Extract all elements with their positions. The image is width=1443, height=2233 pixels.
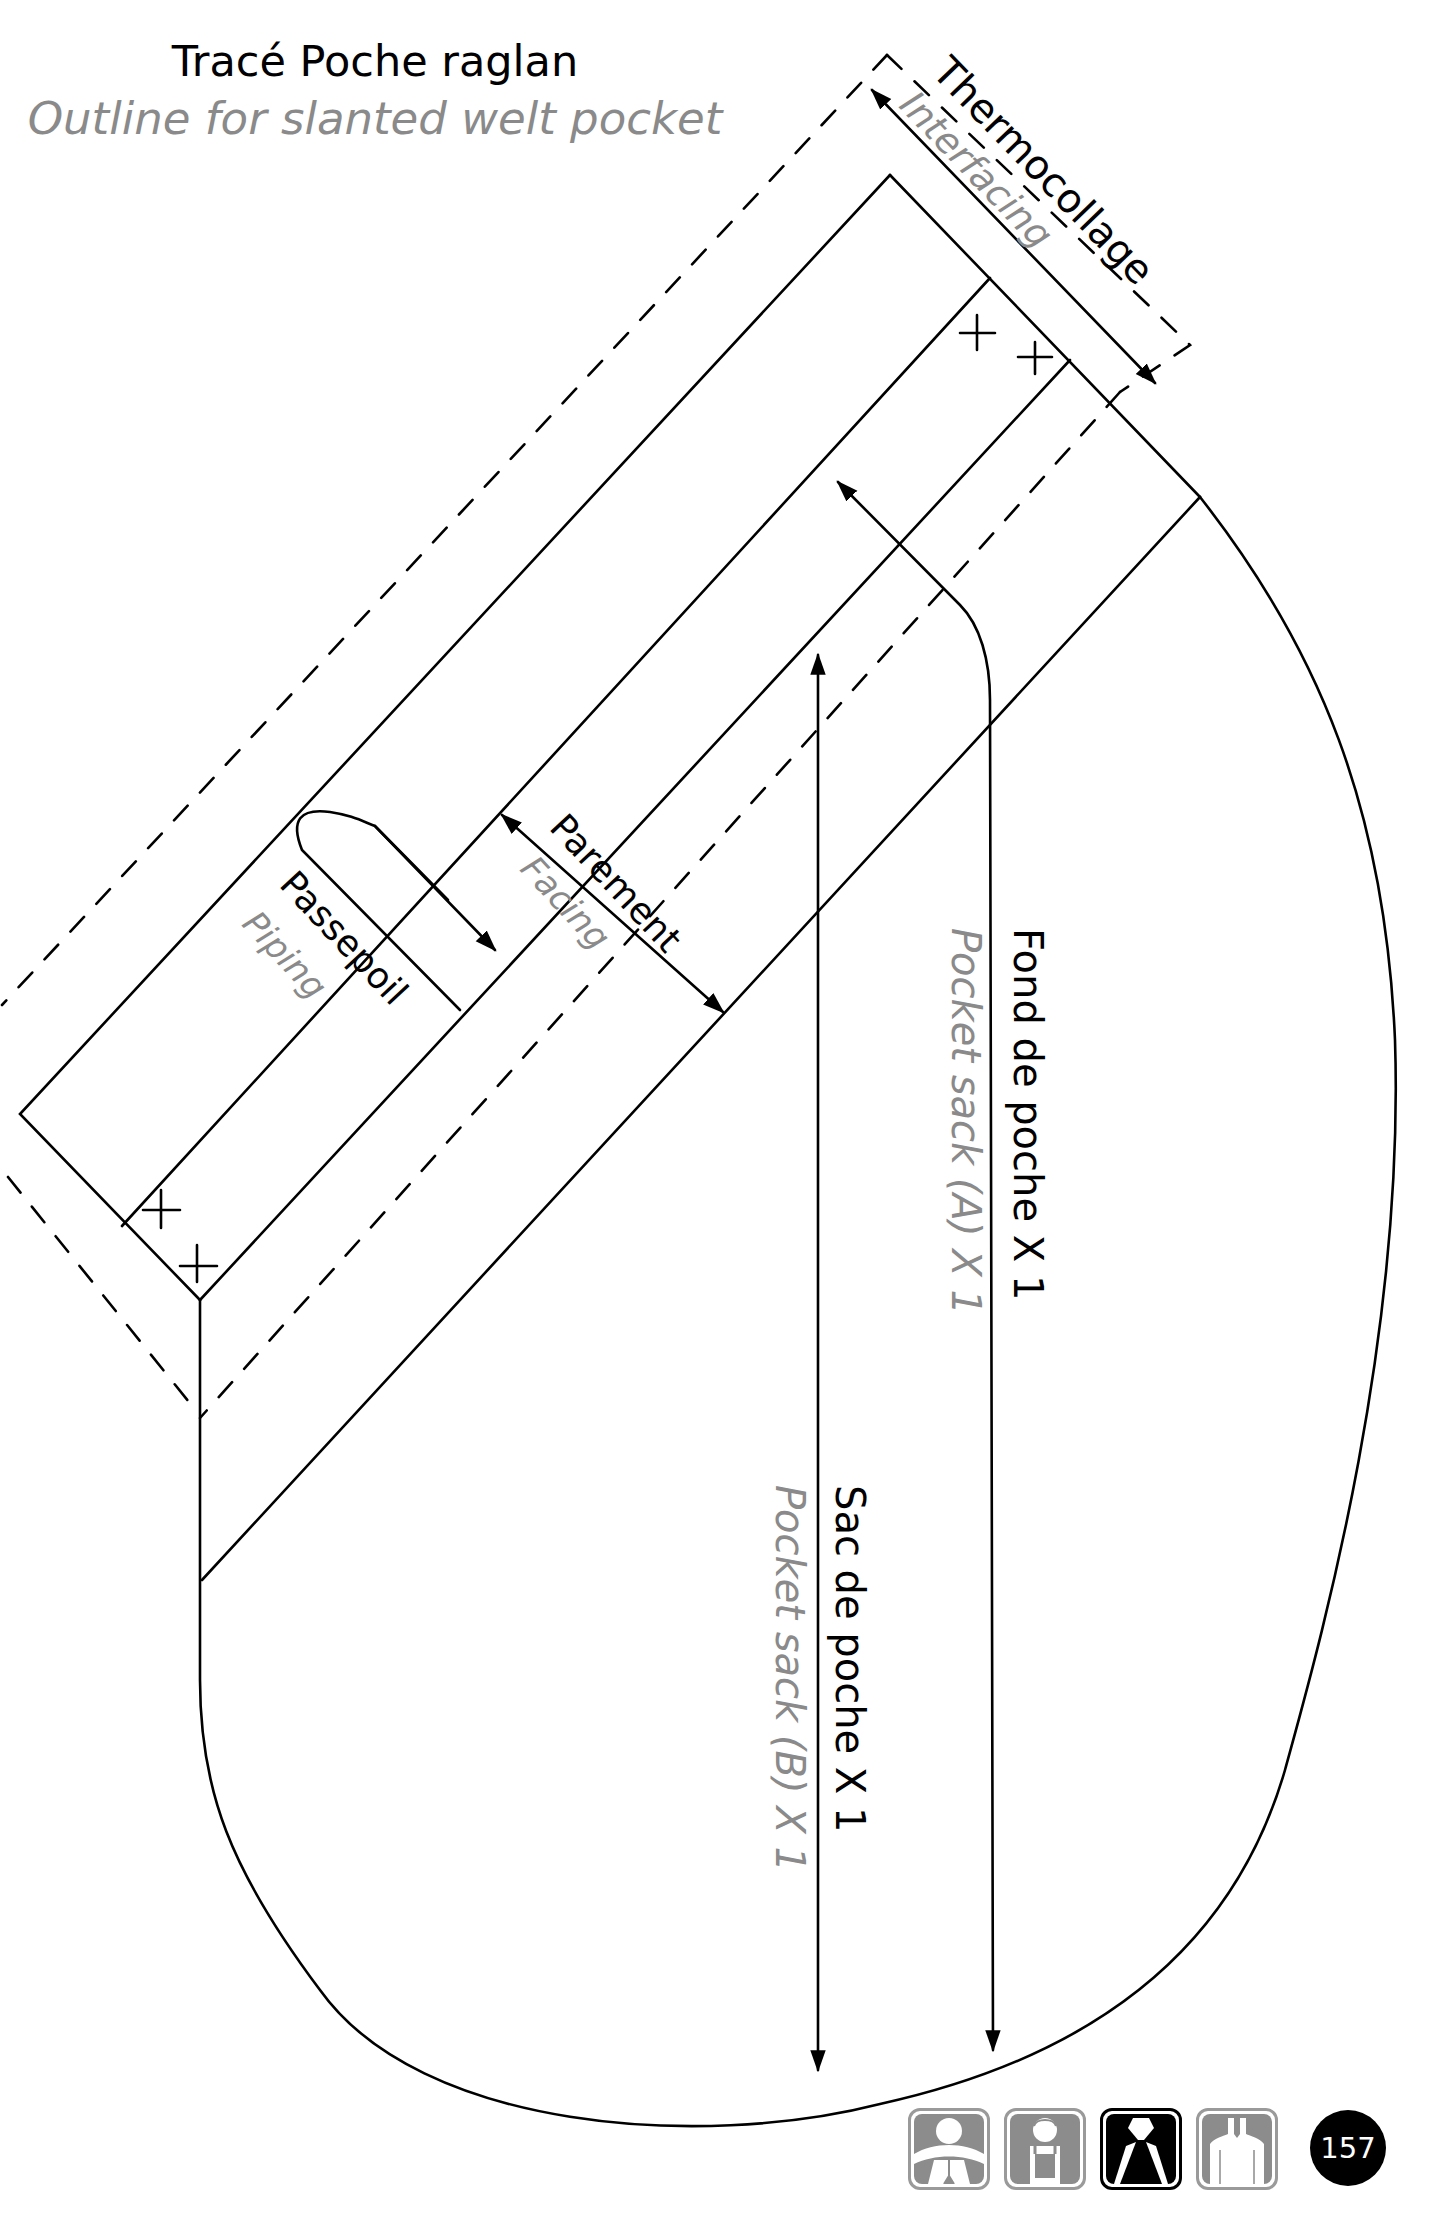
notch-cross-1 bbox=[960, 315, 995, 350]
page-number-badge: 157 bbox=[1310, 2110, 1386, 2186]
pocket-sack-a-label-french: Fond de poche X 1 bbox=[1008, 928, 1048, 1300]
pocket-sack-b-label-english: Pocket sack (B) X 1 bbox=[770, 1485, 810, 1872]
notch-cross-4 bbox=[180, 1245, 217, 1282]
piping-line-1 bbox=[122, 278, 990, 1226]
welt-rectangle bbox=[20, 175, 890, 1300]
pocket-pattern-diagram bbox=[0, 0, 1443, 2233]
pocket-sack-b-label-french: Sac de poche X 1 bbox=[830, 1485, 870, 1832]
child-overalls-icon bbox=[1004, 2108, 1086, 2190]
jacket-collar-icon bbox=[1100, 2108, 1182, 2190]
shirt-neckline-icon bbox=[1196, 2108, 1278, 2190]
title-english: Outline for slanted welt pocket bbox=[0, 92, 750, 145]
piping-line-2 bbox=[200, 360, 1070, 1300]
garment-category-icons bbox=[908, 2108, 1278, 2190]
piping-arrow-end bbox=[375, 826, 448, 900]
notch-cross-2 bbox=[1018, 342, 1052, 374]
pocket-sack-a-label-english: Pocket sack (A) X 1 bbox=[946, 928, 986, 1315]
pocket-sack-outline bbox=[200, 497, 1396, 2126]
title-french: Tracé Poche raglan bbox=[0, 36, 750, 86]
facing-arrow bbox=[502, 815, 723, 1012]
person-shoulders-icon bbox=[908, 2108, 990, 2190]
